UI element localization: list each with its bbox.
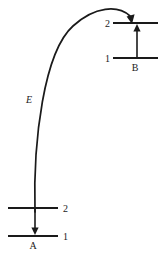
atom-a-group: 2 1 A [8, 203, 68, 251]
b-level-1-label: 1 [105, 53, 110, 64]
a-arrow-head [31, 228, 38, 236]
atom-b-label: B [132, 62, 139, 73]
energy-transfer-curve [35, 9, 130, 212]
b-level-2-label: 2 [105, 18, 110, 29]
energy-transfer-label: E [25, 94, 32, 105]
atom-a-label: A [29, 240, 37, 251]
a-level-2-label: 2 [63, 203, 68, 214]
energy-transfer-diagram: 2 1 B E 2 1 A [0, 0, 165, 263]
a-level-1-label: 1 [63, 231, 68, 242]
diagram-canvas: 2 1 B E 2 1 A [0, 0, 165, 263]
b-upward-transition-arrow [133, 24, 140, 57]
b-arrow-head [133, 24, 140, 32]
a-downward-transition-arrow [31, 209, 38, 235]
energy-transfer-arrow: E [25, 9, 135, 212]
atom-b-group: 2 1 B [105, 18, 158, 73]
